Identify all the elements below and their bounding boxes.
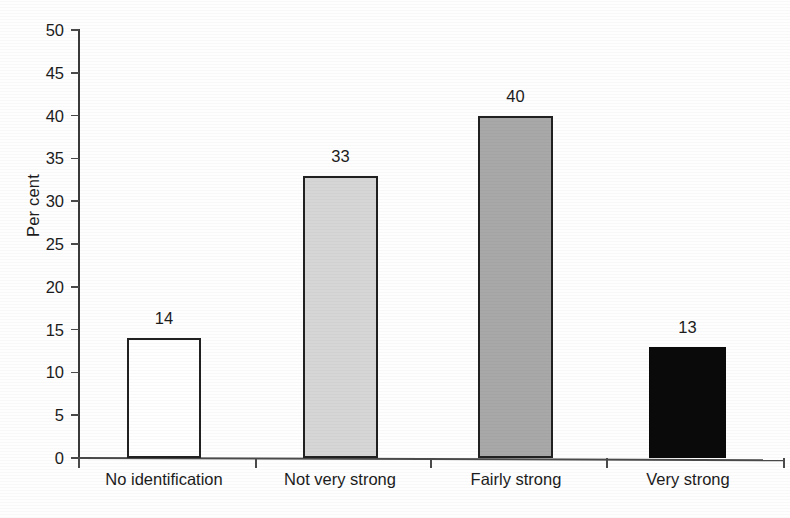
y-axis-tick (71, 286, 79, 288)
bar (303, 176, 378, 458)
bar-value-label: 40 (448, 88, 583, 105)
bar (649, 347, 726, 458)
x-axis-tick (78, 458, 80, 468)
y-axis-tick-label: 50 (22, 22, 64, 39)
y-axis-tick-label: 20 (22, 279, 64, 296)
bar (478, 116, 553, 458)
x-axis-category-label: Not very strong (240, 470, 440, 488)
y-axis-tick (71, 158, 79, 160)
bar-value-label: 13 (619, 319, 756, 336)
y-axis-tick-label: 35 (22, 150, 64, 167)
bar-value-label: 33 (273, 148, 408, 165)
bar-chart: Per cent 50454035302520151050 14334013 N… (0, 0, 790, 518)
y-axis-tick-label: 40 (22, 108, 64, 125)
x-axis-category-label: No identification (64, 470, 264, 488)
y-axis-tick-label: 30 (22, 193, 64, 210)
y-axis-tick-label: 10 (22, 364, 64, 381)
y-axis-tick (71, 329, 79, 331)
y-axis-tick (71, 243, 79, 245)
bar (127, 338, 201, 458)
y-axis-tick (71, 72, 79, 74)
x-axis-tick (430, 458, 432, 468)
x-axis-tick (606, 458, 608, 468)
y-axis-tick (71, 414, 79, 416)
x-axis-tick (783, 458, 785, 468)
y-axis-tick (71, 200, 79, 202)
y-axis-tick (71, 29, 79, 31)
x-axis-category-label: Fairly strong (416, 470, 616, 488)
y-axis-tick-label: 25 (22, 236, 64, 253)
y-axis-tick-label: 45 (22, 65, 64, 82)
y-axis-tick-label: 15 (22, 322, 64, 339)
y-axis-tick (71, 372, 79, 374)
bar-value-label: 14 (97, 310, 231, 327)
y-axis-tick (71, 115, 79, 117)
y-axis-tick-label: 5 (22, 407, 64, 424)
x-axis-tick (255, 458, 257, 468)
y-axis-tick-label: 0 (22, 450, 64, 467)
x-axis-category-label: Very strong (588, 470, 788, 488)
